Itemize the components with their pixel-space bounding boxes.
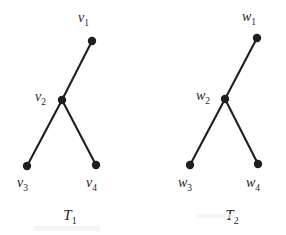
tree-graph-drawing xyxy=(0,0,286,235)
tree-vertex-w4 xyxy=(254,160,262,168)
vertex-label-base: w xyxy=(196,88,205,103)
vertex-label-subscript: 4 xyxy=(92,183,97,193)
tree-vertex-v1 xyxy=(88,37,96,45)
vertex-label-subscript: 3 xyxy=(23,183,28,193)
vertex-label-w2: w2 xyxy=(196,89,210,106)
tree-edge-v2-v3 xyxy=(27,100,62,166)
tree-caption-subscript: 1 xyxy=(72,215,77,226)
vertex-label-subscript: 4 xyxy=(255,183,260,193)
tree-vertex-v3 xyxy=(23,162,31,170)
vertex-label-subscript: 3 xyxy=(187,183,192,193)
tree-vertex-w1 xyxy=(253,34,261,42)
vertex-label-subscript: 2 xyxy=(41,97,46,107)
tree-caption-subscript: 2 xyxy=(234,215,239,226)
vertex-label-base: w xyxy=(178,175,187,190)
vertex-label-v2: v2 xyxy=(35,90,46,107)
tree-edge-w2-w1 xyxy=(225,38,257,99)
vertex-label-w3: w3 xyxy=(178,176,192,193)
tree-caption-T2: T2 xyxy=(212,208,252,226)
tree-vertex-v2 xyxy=(58,96,66,104)
vertex-label-subscript: 2 xyxy=(205,96,210,106)
tree-caption-T1: T1 xyxy=(50,208,90,226)
tree-edge-w2-w4 xyxy=(225,99,258,164)
vertex-label-v1: v1 xyxy=(78,11,89,28)
tree-edge-v2-v1 xyxy=(62,41,92,100)
vertex-label-v4: v4 xyxy=(86,176,97,193)
vertex-label-v3: v3 xyxy=(17,176,28,193)
tree-vertex-v4 xyxy=(92,161,100,169)
tree-vertex-w2 xyxy=(221,95,229,103)
vertex-label-base: w xyxy=(242,9,251,24)
tree-edge-v2-v4 xyxy=(62,100,96,165)
tree-caption-base: T xyxy=(225,207,233,223)
tree-edge-w2-w3 xyxy=(190,99,225,165)
vertex-label-w4: w4 xyxy=(246,176,260,193)
vertex-label-w1: w1 xyxy=(242,10,256,27)
vertex-label-subscript: 1 xyxy=(251,17,256,27)
vertex-label-base: w xyxy=(246,175,255,190)
figure-canvas: v1v2v3v4w1w2w3w4 T1T2 xyxy=(0,0,286,235)
tree-vertex-w3 xyxy=(186,161,194,169)
nodes-layer xyxy=(23,34,262,170)
tree-caption-base: T xyxy=(63,207,71,223)
vertex-label-subscript: 1 xyxy=(84,18,89,28)
